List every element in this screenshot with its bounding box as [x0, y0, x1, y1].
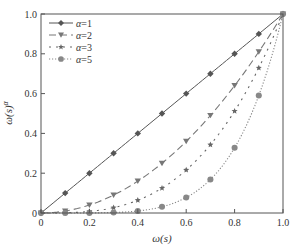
legend-label: α=1 — [76, 18, 92, 29]
x-tick-label: 0 — [39, 217, 44, 228]
circle-marker — [256, 92, 262, 98]
y-axis-label: ω(s)α — [1, 100, 15, 124]
legend: α=1α=2α=3α=5 — [44, 15, 92, 65]
legend-item: α=2 — [49, 30, 92, 41]
triangle-marker — [183, 139, 189, 144]
star-marker — [58, 44, 64, 49]
circle-marker — [232, 145, 238, 151]
y-tick-label: 0 — [32, 208, 37, 219]
x-tick-label: 0.2 — [83, 217, 96, 228]
triangle-marker — [159, 161, 165, 166]
y-tick-label: 0.8 — [25, 48, 38, 59]
star-marker — [256, 65, 262, 71]
y-tick-label: 1.0 — [25, 9, 38, 20]
triangle-marker — [110, 193, 116, 198]
legend-item: α=1 — [49, 18, 92, 29]
star-marker — [159, 185, 165, 191]
circle-marker — [159, 204, 165, 210]
x-tick-label: 1.0 — [277, 217, 290, 228]
triangle-marker — [256, 49, 262, 54]
circle-marker — [207, 177, 213, 183]
star-marker — [183, 167, 189, 173]
x-tick-label: 0.6 — [180, 217, 193, 228]
star-marker — [135, 197, 141, 203]
legend-item: α=3 — [49, 42, 92, 53]
star-marker — [207, 142, 213, 148]
line-chart: 00.20.40.60.81.000.20.40.60.81.0 α=1α=2α… — [0, 0, 299, 249]
star-marker — [111, 204, 117, 210]
y-tick-label: 0.2 — [25, 168, 38, 179]
y-tick-label: 0.6 — [25, 88, 38, 99]
star-marker — [232, 108, 238, 114]
legend-label: α=5 — [76, 54, 92, 65]
circle-marker — [58, 56, 64, 62]
diamond-marker — [58, 20, 64, 26]
legend-item: α=5 — [49, 54, 92, 65]
legend-label: α=2 — [76, 30, 92, 41]
x-tick-label: 0.8 — [228, 217, 241, 228]
x-axis-label: ω(s) — [152, 232, 172, 245]
x-tick-label: 0.4 — [132, 217, 145, 228]
circle-marker — [183, 194, 189, 200]
y-tick-label: 0.4 — [25, 128, 38, 139]
legend-label: α=3 — [76, 42, 92, 53]
